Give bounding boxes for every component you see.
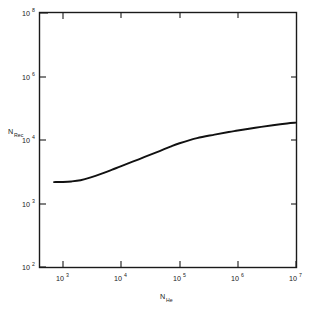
x-tick-label-1e6-base: 10 (231, 274, 239, 283)
y-tick-label-1e2-base: 10 (22, 263, 30, 272)
x-tick-label-1e4-base: 10 (114, 274, 122, 283)
y-tick-label-1e4-exp: 4 (32, 134, 35, 140)
y-tick-label-1e8-base: 10 (22, 9, 30, 18)
y-tick-label-1e3-exp: 3 (32, 198, 35, 204)
y-axis-title-sub: Rec (14, 132, 24, 138)
y-tick-label-1e3-base: 10 (22, 200, 30, 209)
x-tick-label-1e6-exp: 6 (241, 272, 244, 278)
x-tick-label-1e7-exp: 7 (299, 272, 302, 278)
chart-figure: 10 8 10 6 10 4 10 3 10 2 10 (0, 0, 313, 310)
x-axis-title-base: N (160, 292, 165, 301)
y-tick-label-1e8-exp: 8 (32, 7, 35, 13)
x-tick-label-1e7-base: 10 (289, 274, 297, 283)
x-axis-title-sub: He (166, 297, 173, 303)
x-tick-label-1e3-exp: 3 (66, 272, 69, 278)
y-tick-label-1e6-exp: 6 (32, 71, 35, 77)
x-tick-label-1e5-exp: 5 (183, 272, 186, 278)
figure-background (0, 0, 313, 310)
y-tick-label-1e6-base: 10 (22, 73, 30, 82)
chart-canvas: 10 8 10 6 10 4 10 3 10 2 10 (0, 0, 313, 310)
y-tick-label-1e2-exp: 2 (32, 261, 35, 267)
y-axis-title-base: N (8, 127, 13, 136)
x-tick-label-1e3-base: 10 (56, 274, 64, 283)
x-tick-label-1e5-base: 10 (173, 274, 181, 283)
x-tick-label-1e4-exp: 4 (124, 272, 127, 278)
